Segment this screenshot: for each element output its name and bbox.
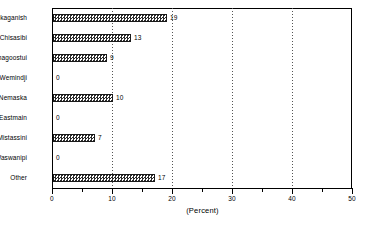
bar-row: Nemaska10	[52, 88, 352, 108]
x-tick-minor-35	[262, 189, 263, 192]
bar-row: Waskaganish19	[52, 8, 352, 28]
bar-value-label: 9	[110, 54, 114, 62]
bar-value-label: 0	[56, 154, 60, 162]
bar	[53, 14, 167, 22]
bar-value-label: 0	[56, 114, 60, 122]
x-tick-minor-5	[82, 189, 83, 192]
bar-value-label: 17	[158, 174, 165, 182]
x-tick-label-40: 40	[280, 195, 304, 203]
bar	[53, 134, 95, 142]
bar-value-label: 0	[56, 74, 60, 82]
plot-area: Waskaganish19Chisasibi13Whapmagoostui9We…	[52, 8, 352, 188]
bar	[53, 94, 113, 102]
bar-value-label: 19	[170, 14, 177, 22]
x-tick-40	[292, 189, 293, 194]
bar	[53, 34, 131, 42]
category-label: Eastmain	[0, 114, 27, 122]
x-axis-title: (Percent)	[52, 206, 353, 215]
x-tick-10	[112, 189, 113, 194]
bar-row: Chisasibi13	[52, 28, 352, 48]
y-axis-line	[52, 8, 53, 189]
bar-value-label: 13	[134, 34, 141, 42]
category-label: Chisasibi	[0, 34, 27, 42]
category-label: Whapmagoostui	[0, 54, 27, 62]
x-tick-20	[172, 189, 173, 194]
category-label: Other	[0, 174, 27, 182]
x-tick-label-30: 30	[220, 195, 244, 203]
category-label: Nemaska	[0, 94, 27, 102]
bar-row: Other17	[52, 168, 352, 188]
bar-value-label: 7	[98, 134, 102, 142]
bar	[53, 54, 107, 62]
bar-row: Eastmain0	[52, 108, 352, 128]
bar-value-label: 10	[116, 94, 123, 102]
category-label: Waswanipi	[0, 154, 27, 162]
x-tick-0	[52, 189, 53, 194]
category-label: Mistassini	[0, 134, 27, 142]
category-label: Wemindji	[0, 74, 27, 82]
x-tick-minor-45	[322, 189, 323, 192]
x-tick-50	[352, 189, 353, 194]
bar-row: Whapmagoostui9	[52, 48, 352, 68]
bar	[53, 174, 155, 182]
bar-row: Mistassini7	[52, 128, 352, 148]
category-label: Waskaganish	[0, 14, 27, 22]
x-tick-minor-15	[142, 189, 143, 192]
bar-row: Waswanipi0	[52, 148, 352, 168]
x-tick-label-10: 10	[100, 195, 124, 203]
x-tick-label-20: 20	[160, 195, 184, 203]
bar-chart: Waskaganish19Chisasibi13Whapmagoostui9We…	[0, 0, 373, 225]
x-tick-minor-25	[202, 189, 203, 192]
x-tick-label-0: 0	[40, 195, 64, 203]
x-tick-30	[232, 189, 233, 194]
bar-row: Wemindji0	[52, 68, 352, 88]
x-tick-label-50: 50	[340, 195, 364, 203]
